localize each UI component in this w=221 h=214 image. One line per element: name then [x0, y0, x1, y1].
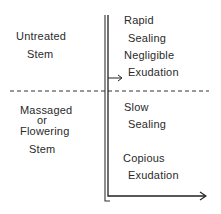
label-flowering: Flowering: [20, 125, 70, 137]
label-slow: Slow: [124, 101, 149, 113]
label-rapid: Rapid: [124, 14, 154, 26]
label-exudation-top: Exudation: [128, 66, 179, 78]
label-or: or: [37, 115, 47, 125]
label-stem-bottom: Stem: [29, 143, 55, 155]
label-sealing-top: Sealing: [128, 32, 166, 44]
label-untreated: Untreated: [16, 30, 66, 42]
label-sealing-bottom: Sealing: [128, 118, 166, 130]
label-negligible: Negligible: [124, 49, 174, 61]
label-stem-top: Stem: [27, 48, 53, 60]
label-copious: Copious: [123, 152, 165, 164]
label-exudation-bottom: Exudation: [128, 169, 179, 181]
